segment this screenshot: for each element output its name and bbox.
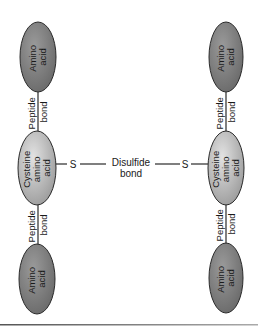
peptide-label: Peptide — [214, 209, 225, 241]
right-chain: Amino acid Peptide bond Cysteine amino a… — [208, 22, 244, 313]
bond-label: bond — [226, 213, 237, 234]
amino-acid-label-line2: acid — [36, 270, 47, 287]
disulfide-label: Disulfide — [112, 157, 151, 168]
peptide-label: Peptide — [214, 97, 225, 129]
right-cysteine: Cysteine amino acid — [208, 131, 244, 205]
disulfide-bond-diagram: Amino acid Peptide bond Cysteine amino a… — [0, 0, 258, 330]
peptide-label: Peptide — [26, 97, 37, 129]
amino-acid-label-line2: acid — [37, 48, 48, 65]
right-sulfur-label: S — [182, 159, 189, 170]
bond-label: bond — [38, 214, 49, 235]
cysteine-label-line3: acid — [41, 159, 52, 176]
cysteine-label-line3: acid — [230, 159, 241, 176]
left-cysteine: Cysteine amino acid — [18, 131, 56, 205]
left-bottom-amino-acid: Amino acid — [19, 244, 55, 314]
disulfide-bridge: S Disulfide bond S — [56, 157, 208, 179]
left-chain: Amino acid Peptide bond Cysteine amino a… — [18, 22, 56, 314]
right-bottom-amino-acid: Amino acid — [209, 243, 243, 313]
bond-label: bond — [226, 101, 237, 122]
bond-label: bond — [38, 101, 49, 122]
left-sulfur-label: S — [70, 159, 77, 170]
bottom-divider — [0, 324, 258, 326]
amino-acid-label-line2: acid — [225, 269, 236, 286]
disulfide-bond-label: bond — [120, 168, 142, 179]
right-top-amino-acid: Amino acid — [209, 22, 243, 92]
peptide-label: Peptide — [26, 210, 37, 242]
left-top-amino-acid: Amino acid — [20, 22, 56, 92]
amino-acid-label-line2: acid — [225, 48, 236, 65]
